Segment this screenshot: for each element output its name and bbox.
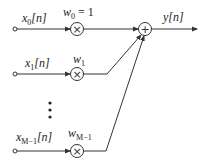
multiply-icon: × [72,68,81,81]
input-node-1 [13,72,17,76]
weight-label-0: w0 = 1 [63,5,94,21]
weight-label-m-1: wM−1 [68,126,92,142]
input-label-0: x0[n] [21,11,47,27]
branch-0: x0[n] × w0 = 1 [13,5,138,36]
branch-1: x1[n] × w1 [13,35,141,81]
input-label-m-1: xM−1[n] [15,130,53,146]
plus-icon: + [140,23,149,36]
input-node-m-1 [13,149,17,153]
summation-node: + y[n] [139,10,198,36]
multiply-icon: × [72,145,81,158]
multiply-icon: × [72,23,81,36]
linear-combiner-diagram: x0[n] × w0 = 1 x1[n] × w1 xM−1[n] [0,0,203,163]
output-label: y[n] [162,10,184,24]
input-node-0 [13,27,17,31]
input-label-1: x1[n] [24,56,50,72]
ellipsis-dots [48,101,51,118]
weight-label-1: w1 [73,52,85,68]
